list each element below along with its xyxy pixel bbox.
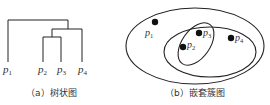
dendrogram-leaf-labels: p1 p2 p3 p4 xyxy=(2,63,88,77)
leaf-label-p2: p2 xyxy=(37,63,48,77)
leaf-label-p4: p4 xyxy=(77,63,88,77)
cluster-inner-ellipse xyxy=(171,16,221,71)
leaf-label-p3: p3 xyxy=(56,63,67,77)
point-p4 xyxy=(228,35,234,41)
point-label-p1: p1 xyxy=(144,27,153,39)
point-p1 xyxy=(152,19,158,25)
point-label-p3: p3 xyxy=(202,27,211,39)
caption-dendrogram: （a）树状图 xyxy=(26,86,77,99)
point-label-p2: p2 xyxy=(186,39,195,51)
dendrogram xyxy=(8,20,82,62)
point-p2 xyxy=(180,44,186,50)
point-p3 xyxy=(196,30,202,36)
leaf-label-p1: p1 xyxy=(2,63,13,77)
caption-nested-clusters: （b）嵌套簇图 xyxy=(165,86,225,99)
figure: p1 p2 p3 p4 p1 p2 p3 p4 （a）树状图 （b）嵌套簇图 xyxy=(0,0,270,105)
